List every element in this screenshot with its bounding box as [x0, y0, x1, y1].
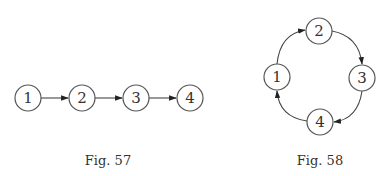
node-label: 4 — [315, 113, 325, 131]
node-label: 2 — [77, 89, 87, 107]
edge-3-4 — [334, 91, 362, 122]
node-label: 3 — [131, 89, 141, 107]
figure-57: 1 2 3 4 Fig. 57 — [15, 85, 203, 168]
edge-4-1 — [277, 91, 307, 121]
figure-caption: Fig. 57 — [85, 153, 131, 168]
node-2: 2 — [306, 18, 332, 44]
node-3: 3 — [349, 65, 375, 91]
figure-caption: Fig. 58 — [297, 153, 343, 168]
node-label: 2 — [314, 22, 324, 40]
node-label: 1 — [23, 89, 33, 107]
node-1: 1 — [15, 85, 41, 111]
node-label: 4 — [185, 89, 195, 107]
node-2: 2 — [69, 85, 95, 111]
node-4: 4 — [307, 109, 333, 135]
figure-58: 1 2 3 4 Fig. 58 — [264, 18, 375, 168]
node-3: 3 — [123, 85, 149, 111]
diagram-canvas: 1 2 3 4 Fig. 57 1 2 3 — [0, 0, 384, 176]
node-1: 1 — [264, 64, 290, 90]
node-label: 1 — [272, 68, 282, 86]
edge-1-2 — [277, 30, 305, 64]
node-label: 3 — [357, 69, 367, 87]
edge-2-3 — [332, 31, 362, 64]
node-4: 4 — [177, 85, 203, 111]
